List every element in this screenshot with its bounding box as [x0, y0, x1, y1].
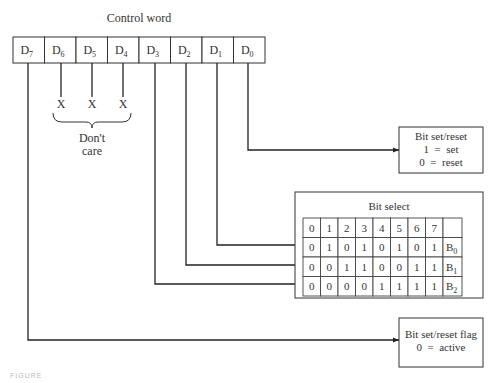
bit-select-table: 0123456701010101B000110011B100001111B2 [303, 218, 462, 296]
flag-title: Bit set/reset flag [405, 328, 478, 340]
svg-text:0: 0 [362, 280, 368, 292]
svg-text:1: 1 [414, 280, 420, 292]
dont-care-label-2: care [82, 144, 102, 158]
svg-text:0: 0 [327, 261, 333, 273]
dont-care-mark-d5: X [88, 97, 97, 111]
svg-text:1: 1 [397, 280, 403, 292]
dont-care-brace [53, 113, 131, 128]
svg-text:0: 0 [309, 280, 315, 292]
bit-set-reset-flag-box: Bit set/reset flag 0 = active [399, 318, 483, 367]
figure-caption: FIGURE [10, 372, 42, 379]
control-word-title: Control word [107, 11, 171, 25]
svg-text:5: 5 [397, 222, 403, 234]
svg-text:0: 0 [379, 261, 385, 273]
svg-text:0: 0 [309, 222, 315, 234]
dont-care-mark-d6: X [57, 97, 66, 111]
dont-care-mark-d4: X [119, 97, 128, 111]
svg-text:1: 1 [414, 261, 420, 273]
svg-text:0: 0 [344, 241, 350, 253]
bit-select-row-label-cell [443, 218, 462, 238]
bit-set-reset-box: Bit set/reset 1 = set 0 = reset [399, 127, 483, 173]
svg-text:1: 1 [397, 241, 403, 253]
svg-text:0: 0 [379, 241, 385, 253]
svg-text:1: 1 [432, 280, 438, 292]
svg-text:1: 1 [362, 241, 368, 253]
svg-text:0: 0 [397, 261, 403, 273]
svg-text:0: 0 [309, 241, 315, 253]
flag-line1: 0 = active [417, 341, 466, 353]
svg-text:6: 6 [414, 222, 420, 234]
bit-set-reset-line2: 0 = reset [419, 156, 462, 168]
svg-text:0: 0 [309, 261, 315, 273]
dont-care-label: Don't [79, 131, 106, 145]
svg-text:1: 1 [327, 222, 333, 234]
bit-select-box: Bit select 0123456701010101B000110011B10… [295, 192, 483, 298]
svg-text:1: 1 [362, 261, 368, 273]
svg-text:2: 2 [344, 222, 350, 234]
svg-text:0: 0 [327, 280, 333, 292]
svg-text:0: 0 [414, 241, 420, 253]
svg-text:1: 1 [344, 261, 350, 273]
svg-text:0: 0 [344, 280, 350, 292]
control-word-register: D7D6D5D4D3D2D1D0 [13, 37, 265, 63]
control-word-diagram: Control word D7D6D5D4D3D2D1D0 X X X Don'… [0, 0, 498, 383]
svg-text:1: 1 [432, 241, 438, 253]
svg-text:1: 1 [327, 241, 333, 253]
svg-text:4: 4 [379, 222, 385, 234]
svg-text:7: 7 [432, 222, 438, 234]
bit-set-reset-line1: 1 = set [424, 143, 459, 155]
bit-select-title: Bit select [368, 200, 409, 212]
svg-text:1: 1 [379, 280, 385, 292]
svg-text:1: 1 [432, 261, 438, 273]
svg-text:3: 3 [362, 222, 368, 234]
bit-set-reset-title: Bit set/reset [415, 130, 467, 142]
